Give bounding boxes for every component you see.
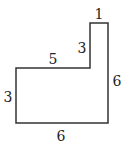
l-shape-outline	[16, 23, 108, 123]
label-inner-horizontal: 5	[49, 51, 58, 67]
label-left: 3	[4, 89, 13, 105]
l-shape-diagram: 1 3 5 6 3 6	[0, 0, 126, 146]
label-bottom: 6	[57, 128, 66, 144]
label-top: 1	[95, 6, 104, 22]
label-inner-vertical: 3	[78, 40, 87, 56]
label-right: 6	[113, 73, 122, 89]
